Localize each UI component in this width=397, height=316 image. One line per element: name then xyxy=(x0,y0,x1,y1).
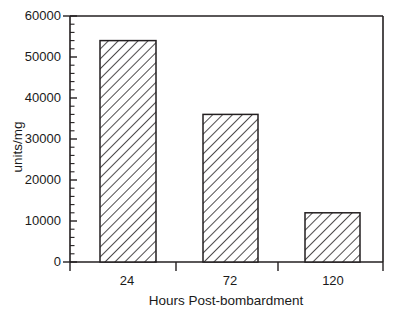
y-tick-label-10000: 10000 xyxy=(25,213,61,228)
y-axis-title: units/mg xyxy=(10,121,25,172)
bar-chart-figure: 60000 50000 40000 30000 20000 10000 0 24… xyxy=(0,0,397,316)
y-tick-label-50000: 50000 xyxy=(25,49,61,64)
x-tick-label-24: 24 xyxy=(120,273,134,288)
chart-canvas: 60000 50000 40000 30000 20000 10000 0 24… xyxy=(0,0,397,316)
y-tick-label-20000: 20000 xyxy=(25,172,61,187)
x-axis-title: Hours Post-bombardment xyxy=(149,293,304,308)
x-tick-label-120: 120 xyxy=(322,273,344,288)
y-axis-tick-labels: 60000 50000 40000 30000 20000 10000 0 xyxy=(25,8,61,269)
y-tick-label-60000: 60000 xyxy=(25,8,61,23)
x-tick-label-72: 72 xyxy=(223,273,237,288)
y-tick-label-0: 0 xyxy=(54,254,61,269)
x-axis-tick-labels: 24 72 120 xyxy=(120,273,344,288)
bar-120 xyxy=(305,213,360,262)
y-tick-label-30000: 30000 xyxy=(25,131,61,146)
bar-72 xyxy=(203,114,258,262)
bar-24 xyxy=(100,41,156,262)
x-axis-ticks xyxy=(70,262,383,271)
y-tick-label-40000: 40000 xyxy=(25,90,61,105)
